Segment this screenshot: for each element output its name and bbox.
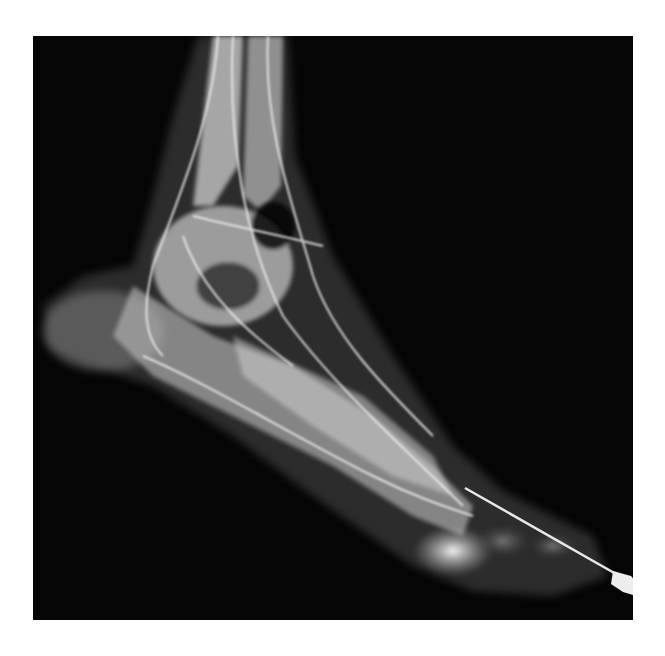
xray-image <box>33 36 633 620</box>
foot-xray-illustration <box>33 36 633 620</box>
